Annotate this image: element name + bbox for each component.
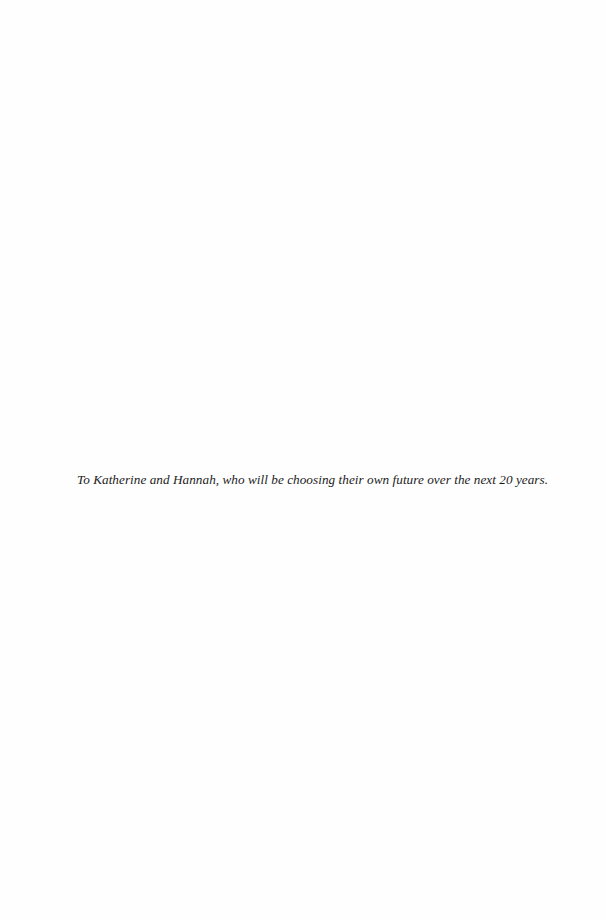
document-page: To Katherine and Hannah, who will be cho…	[0, 0, 606, 921]
dedication-text: To Katherine and Hannah, who will be cho…	[77, 472, 547, 488]
